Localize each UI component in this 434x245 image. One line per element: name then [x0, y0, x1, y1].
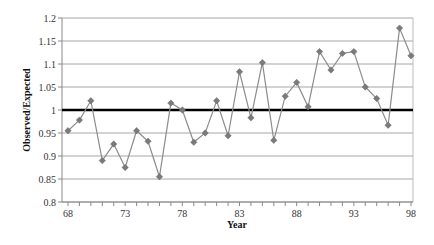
- x-tick-label: 88: [292, 208, 302, 219]
- y-tick-label: 0.95: [39, 128, 57, 139]
- diamond-marker: [179, 107, 185, 113]
- diamond-marker: [88, 98, 94, 104]
- diamond-marker: [271, 137, 277, 143]
- diamond-marker: [385, 122, 391, 128]
- diamond-marker: [351, 48, 357, 54]
- data-series: [65, 25, 414, 180]
- diamond-marker: [259, 59, 265, 65]
- diamond-marker: [213, 98, 219, 104]
- diamond-marker: [316, 48, 322, 54]
- diamond-marker: [396, 25, 402, 31]
- x-axis: 68737883889398: [63, 202, 416, 219]
- x-tick-label: 93: [349, 208, 359, 219]
- x-tick-label: 73: [120, 208, 130, 219]
- x-tick-label: 83: [235, 208, 245, 219]
- y-tick-label: 1.2: [44, 13, 57, 24]
- diamond-marker: [248, 115, 254, 121]
- diamond-marker: [225, 133, 231, 139]
- y-tick-label: 1.1: [44, 59, 57, 70]
- observed-expected-line-chart: 0.80.850.90.9511.051.11.151.2 6873788388…: [0, 0, 434, 245]
- y-tick-label: 0.85: [39, 174, 57, 185]
- x-tick-label: 68: [63, 208, 73, 219]
- y-axis-title: Observed/Expected: [21, 68, 32, 152]
- y-axis: 0.80.850.90.9511.051.11.151.2: [39, 13, 63, 208]
- diamond-marker: [168, 100, 174, 106]
- x-tick-label: 98: [406, 208, 416, 219]
- diamond-marker: [236, 69, 242, 75]
- x-axis-title: Year: [227, 219, 248, 230]
- y-tick-label: 0.9: [44, 151, 57, 162]
- y-tick-label: 1.15: [39, 36, 57, 47]
- y-tick-label: 1: [51, 105, 56, 116]
- series-line: [68, 28, 411, 177]
- diamond-marker: [122, 164, 128, 170]
- x-tick-label: 78: [177, 208, 187, 219]
- y-tick-label: 1.05: [39, 82, 57, 93]
- y-tick-label: 0.8: [44, 197, 57, 208]
